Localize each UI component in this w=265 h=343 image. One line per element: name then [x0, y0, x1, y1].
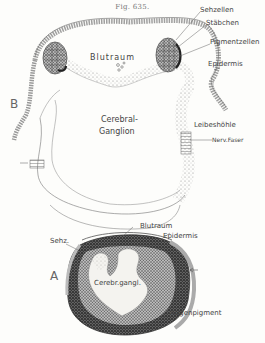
- label-staebchen: Stäbchen: [206, 20, 239, 27]
- label-sehz: Sehz.: [50, 238, 69, 245]
- label-cerebral: Cerebral-: [101, 116, 138, 124]
- label-pigmentzellen: Pigmentzellen: [210, 39, 259, 46]
- label-augenpigment: Augenpigment: [170, 310, 222, 317]
- label-blutraum-a: Blutraum: [140, 223, 172, 230]
- label-cerebrganglion: Cerebr.gangl.: [94, 280, 141, 287]
- panel-letter-a: A: [50, 270, 58, 282]
- label-epidermis-b: Epidermis: [208, 61, 243, 68]
- label-epidermis-a: Epidermis: [163, 233, 198, 240]
- anatomical-drawing: [0, 0, 265, 343]
- label-sehzellen: Sehzellen: [200, 7, 234, 14]
- panel-letter-b: B: [10, 98, 18, 110]
- label-blutraum-b: Blutraum: [90, 54, 135, 62]
- label-ganglion: Ganglion: [99, 128, 135, 136]
- label-nervfaser: Nerv.Faser: [212, 137, 244, 143]
- label-leibeshoehle: Leibeshöhle: [194, 122, 236, 129]
